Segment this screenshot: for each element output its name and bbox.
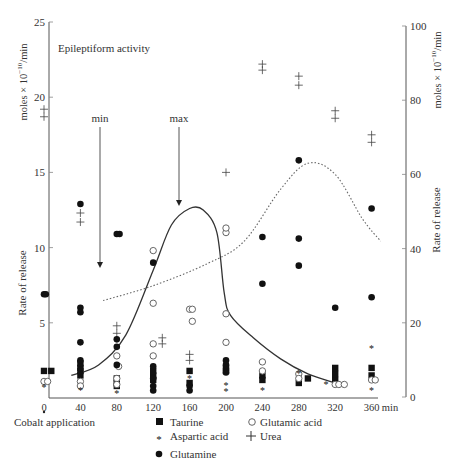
data-point-urea	[222, 168, 230, 176]
data-point-glutamine	[259, 234, 266, 241]
data-point-glutamine	[77, 339, 84, 346]
epileptiform-curve	[71, 207, 335, 383]
asterisk-icon: *	[156, 433, 162, 445]
urea-trend-curve	[103, 163, 381, 301]
data-point-glutamine	[296, 157, 303, 164]
data-point-taurine	[48, 368, 54, 374]
data-point-glutamine	[296, 262, 303, 269]
data-point-urea	[76, 209, 84, 217]
data-point-glutamic-acid	[114, 381, 120, 387]
data-point-urea	[113, 322, 121, 330]
right-tick-label: 40	[410, 243, 422, 255]
left-units-label: moles × 10−10/min	[16, 43, 29, 121]
data-point-urea	[295, 72, 303, 80]
data-point-glutamine	[77, 201, 84, 208]
data-point-glutamic-acid	[150, 247, 156, 253]
right-tick-label: 0	[410, 391, 416, 403]
right-units-label: moles × 10−10/min	[430, 31, 443, 109]
svg-text:moles × 10−10/min: moles × 10−10/min	[16, 43, 29, 121]
data-point-glutamine	[77, 309, 84, 316]
data-point-aspartic-acid: *	[369, 385, 374, 396]
data-point-aspartic-acid: *	[296, 368, 301, 379]
filled-square-icon	[156, 418, 163, 425]
x-tick-label: 240	[255, 402, 271, 413]
svg-text:max: max	[170, 112, 189, 124]
data-point-glutamic-acid	[114, 375, 120, 381]
data-point-glutamine	[150, 375, 157, 382]
data-point-glutamine	[43, 291, 50, 298]
data-point-glutamic-acid	[223, 311, 229, 317]
data-point-glutamine	[332, 304, 339, 311]
data-point-glutamic-acid	[341, 381, 347, 387]
data-point-glutamine	[259, 280, 266, 287]
data-point-urea	[40, 105, 48, 113]
left-axis-ticks: 510152025	[34, 16, 53, 329]
data-point-aspartic-acid: *	[78, 385, 83, 396]
data-point-aspartic-acid: *	[187, 373, 192, 384]
arrow-down-icon	[97, 262, 103, 268]
data-point-glutamine	[223, 362, 230, 369]
data-point-aspartic-acid: *	[260, 385, 265, 396]
legend-urea: Urea	[246, 430, 281, 442]
left-tick-label: 5	[40, 317, 46, 329]
right-tick-label: 100	[410, 20, 427, 32]
svg-text:Glutamic acid: Glutamic acid	[260, 416, 323, 428]
x-tick-label: 280	[291, 402, 307, 413]
arrow-down-icon	[176, 200, 182, 206]
data-point-glutamine	[150, 259, 157, 266]
data-point-taurine	[41, 368, 47, 374]
data-point-urea	[331, 114, 339, 122]
left-tick-label: 25	[34, 16, 46, 28]
data-point-aspartic-acid: *	[324, 379, 329, 390]
data-point-glutamine	[116, 231, 123, 238]
data-point-urea	[295, 81, 303, 89]
x-tick-label: 320	[327, 402, 343, 413]
x-tick-label: 360	[364, 402, 380, 413]
right-axis-label: Rate of release	[430, 187, 442, 252]
data-point-glutamic-acid	[259, 359, 265, 365]
data-point-glutamine	[114, 336, 121, 343]
filled-circle-icon	[156, 451, 163, 458]
legend-aspartic-acid: * Aspartic acid	[156, 430, 229, 445]
legend-taurine: Taurine	[156, 416, 204, 428]
data-point-urea	[258, 66, 266, 74]
data-point-glutamine	[368, 294, 375, 301]
cobalt-application-label: Cobalt application	[14, 416, 95, 428]
svg-text:Taurine: Taurine	[170, 416, 204, 428]
data-point-taurine	[368, 365, 374, 371]
data-point-aspartic-acid: *	[224, 386, 229, 397]
data-point-glutamic-acid	[150, 353, 156, 359]
svg-text:Aspartic acid: Aspartic acid	[170, 430, 229, 442]
data-point-glutamic-acid	[150, 341, 156, 347]
data-point-aspartic-acid: *	[114, 388, 119, 399]
data-point-taurine	[332, 371, 338, 377]
legend-glutamic-acid: Glutamic acid	[249, 416, 323, 428]
data-point-glutamine	[114, 362, 121, 369]
x-tick-label: 160	[182, 402, 198, 413]
left-tick-label: 20	[34, 91, 46, 103]
data-point-aspartic-acid: *	[369, 343, 374, 354]
plus-icon	[246, 431, 256, 441]
data-point-glutamine	[368, 205, 375, 212]
left-tick-label: 15	[34, 166, 46, 178]
data-point-glutamine	[223, 369, 230, 376]
data-point-glutamic-acid	[372, 377, 378, 383]
chart-title: Epileptiform activity	[58, 42, 150, 54]
left-axis-label: Rate of release	[16, 250, 28, 315]
legend-glutamine: Glutamine	[156, 448, 217, 460]
x-unit-label: min	[382, 402, 399, 413]
data-point-urea	[331, 107, 339, 115]
data-point-urea	[368, 138, 376, 146]
cobalt-marker	[43, 411, 45, 413]
left-tick-label: 10	[34, 242, 46, 254]
data-point-urea	[76, 218, 84, 226]
data-point-glutamic-acid	[223, 225, 229, 231]
svg-text:Rate of release: Rate of release	[16, 250, 28, 315]
data-point-taurine	[332, 365, 338, 371]
data-point-glutamic-acid	[114, 353, 120, 359]
x-tick-label: 200	[218, 402, 234, 413]
svg-text:min: min	[91, 112, 109, 124]
data-point-urea	[186, 350, 194, 358]
data-point-taurine	[305, 375, 311, 381]
legend: Taurine Glutamic acid * Aspartic acid Ur…	[156, 416, 323, 460]
